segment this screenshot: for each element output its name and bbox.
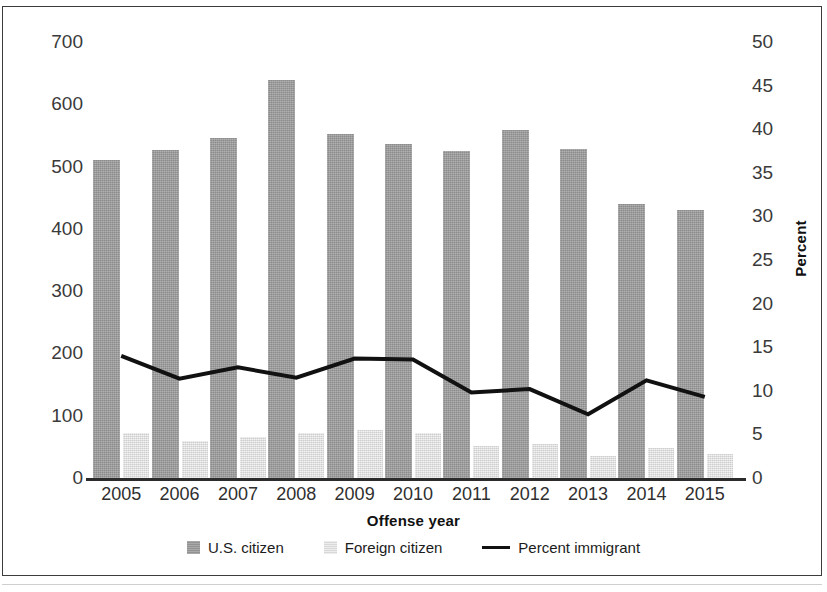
x-axis-title: Offense year [0, 512, 827, 529]
y-tick-left-100: 100 [23, 405, 83, 427]
y-tick-right-15: 15 [752, 336, 798, 358]
x-axis-baseline [86, 478, 746, 481]
y-tick-left-0: 0 [23, 467, 83, 489]
y-tick-right-10: 10 [752, 380, 798, 402]
chart-legend: U.S. citizenForeign citizenPercent immig… [0, 540, 827, 555]
legend-swatch-us-citizen-icon [187, 541, 200, 554]
legend-swatch-percent-line-icon [482, 546, 510, 550]
y-tick-right-5: 5 [752, 423, 798, 445]
legend-label: Foreign citizen [345, 540, 443, 555]
y-tick-right-40: 40 [752, 118, 798, 140]
y-tick-left-400: 400 [23, 218, 83, 240]
legend-label: Percent immigrant [518, 540, 640, 555]
y-tick-left-600: 600 [23, 93, 83, 115]
y-tick-left-700: 700 [23, 31, 83, 53]
y-tick-right-35: 35 [752, 162, 798, 184]
y-axis-right-title: Percent [792, 220, 809, 276]
x-tick-2015: 2015 [670, 484, 740, 505]
y-tick-right-0: 0 [752, 467, 798, 489]
y-tick-left-200: 200 [23, 342, 83, 364]
y-tick-left-500: 500 [23, 156, 83, 178]
y-tick-right-45: 45 [752, 75, 798, 97]
percent-immigrant-line [92, 38, 734, 478]
bottom-rule [2, 584, 822, 585]
y-tick-left-300: 300 [23, 280, 83, 302]
legend-swatch-foreign-citizen-icon [324, 541, 337, 554]
plot-area [92, 38, 734, 478]
legend-label: U.S. citizen [208, 540, 284, 555]
chart-figure: 0100200300400500600700 05101520253035404… [0, 0, 827, 592]
legend-item-0[interactable]: U.S. citizen [187, 540, 284, 555]
legend-item-2[interactable]: Percent immigrant [482, 540, 640, 555]
y-tick-right-20: 20 [752, 293, 798, 315]
y-tick-right-50: 50 [752, 31, 798, 53]
legend-item-1[interactable]: Foreign citizen [324, 540, 443, 555]
